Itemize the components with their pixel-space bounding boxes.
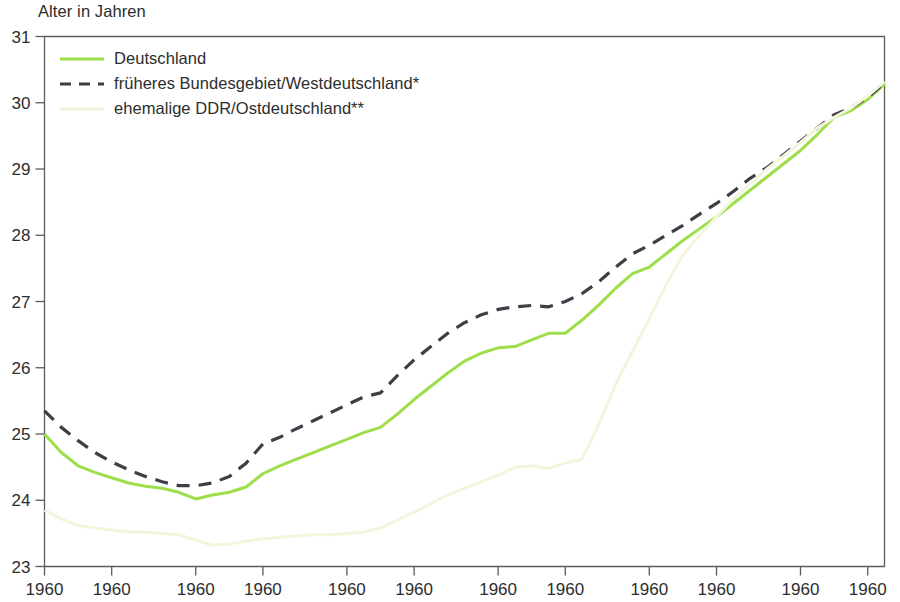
series-line-frheresbundesgebiet	[45, 83, 885, 486]
x-tick-label: 1960	[546, 580, 584, 599]
legend-label: ehemalige DDR/Ostdeutschland**	[114, 99, 364, 118]
y-tick-label: 31	[12, 28, 31, 47]
y-tick-label: 29	[12, 160, 31, 179]
y-tick-label: 28	[12, 226, 31, 245]
legend-item-ost[interactable]: ehemalige DDR/Ostdeutschland**	[60, 96, 530, 121]
x-tick-label: 1960	[782, 580, 820, 599]
x-tick-label: 1960	[177, 580, 215, 599]
x-tick-label: 1960	[26, 580, 64, 599]
series-line-ehemaligeddr	[45, 82, 885, 546]
y-axis-ticks: 232425262728293031	[12, 28, 45, 577]
legend-swatch-solid-icon	[60, 51, 104, 67]
y-tick-label: 30	[12, 94, 31, 113]
x-tick-label: 1960	[849, 580, 887, 599]
chart-legend: Deutschlandfrüheres Bundesgebiet/Westdeu…	[60, 46, 530, 121]
data-series-layer	[45, 82, 885, 546]
legend-label: Deutschland	[114, 49, 206, 68]
x-tick-label: 1960	[244, 580, 282, 599]
x-axis-ticks: 1960196019601960196019601960196019601960…	[26, 567, 887, 599]
y-tick-label: 24	[12, 491, 31, 510]
x-tick-label: 1960	[479, 580, 517, 599]
y-tick-label: 26	[12, 359, 31, 378]
y-tick-label: 23	[12, 558, 31, 577]
x-tick-label: 1960	[395, 580, 433, 599]
legend-item-deutschland[interactable]: Deutschland	[60, 46, 530, 71]
x-tick-label: 1960	[93, 580, 131, 599]
series-line-deutschland	[45, 84, 885, 499]
y-tick-label: 25	[12, 425, 31, 444]
chart-container: Alter in Jahren 232425262728293031 19601…	[0, 0, 900, 602]
y-tick-label: 27	[12, 293, 31, 312]
x-tick-label: 1960	[630, 580, 668, 599]
x-tick-label: 1960	[328, 580, 366, 599]
x-tick-label: 1960	[698, 580, 736, 599]
legend-label: früheres Bundesgebiet/Westdeutschland*	[114, 74, 419, 93]
legend-swatch-dotted-icon	[60, 101, 104, 117]
legend-swatch-dashed-icon	[60, 76, 104, 92]
legend-item-west[interactable]: früheres Bundesgebiet/Westdeutschland*	[60, 71, 530, 96]
